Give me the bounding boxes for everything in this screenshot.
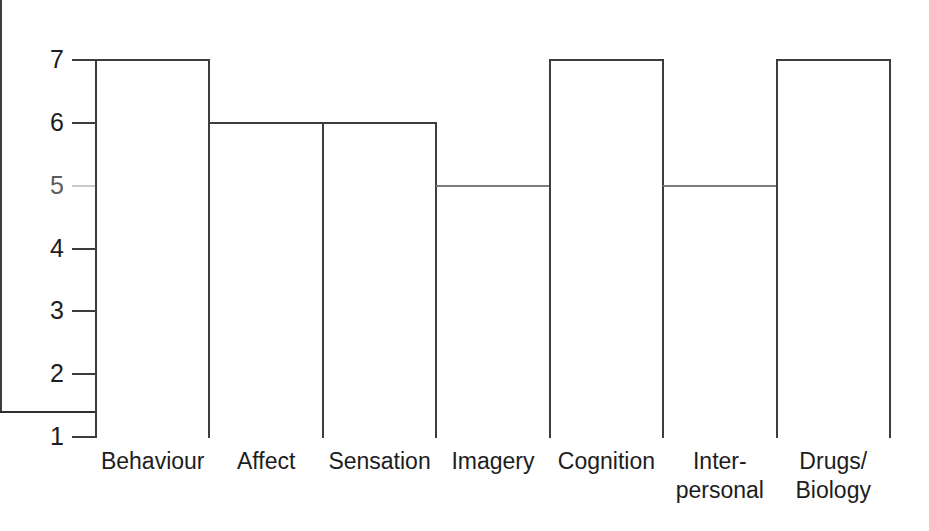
x-axis-label-sensation: Sensation <box>323 447 436 525</box>
bar-behaviour <box>95 59 210 438</box>
x-axis-label-imagery: Imagery <box>436 447 549 525</box>
x-axis-label-line: personal <box>665 476 774 505</box>
x-axis-label-line: Behaviour <box>101 448 205 474</box>
x-axis-label-behaviour: Behaviour <box>96 447 209 525</box>
x-axis-label-line: Sensation <box>328 448 430 474</box>
bar-cognition <box>549 59 664 438</box>
x-axis-labels: BehaviourAffectSensationImageryCognition… <box>96 447 890 525</box>
bar-sensation <box>322 122 437 438</box>
x-axis-label-line: Imagery <box>451 448 534 474</box>
x-axis-label-affect: Affect <box>209 447 322 525</box>
x-axis-label-drugs-biology: Drugs/Biology <box>777 447 890 525</box>
bar-affect <box>208 122 323 438</box>
x-axis-label-line: Biology <box>779 476 888 505</box>
x-axis-label-line: Affect <box>237 448 295 474</box>
x-axis-label-line: Inter- <box>693 448 747 474</box>
bar-drugs-biology <box>776 59 891 438</box>
bar-inter-personal <box>662 185 777 438</box>
x-axis-label-cognition: Cognition <box>550 447 663 525</box>
x-axis-label-inter-personal: Inter-personal <box>663 447 776 525</box>
x-axis-label-line: Cognition <box>558 448 655 474</box>
bar-chart: 7654321 BehaviourAffectSensationImageryC… <box>0 0 929 531</box>
x-axis-label-line: Drugs/ <box>799 448 867 474</box>
bar-imagery <box>435 185 550 438</box>
